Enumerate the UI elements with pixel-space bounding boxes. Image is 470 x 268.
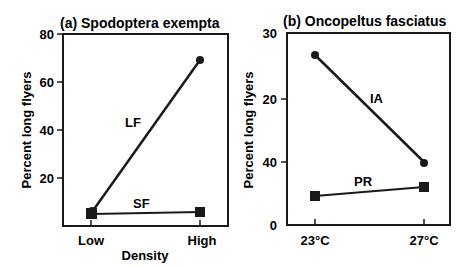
series-pr-label: PR <box>354 174 373 189</box>
panel-a-ytick-label: 20 <box>40 171 54 186</box>
panel-b: (b) Oncopeltus fasciatus 0 40 20 30 23°C… <box>241 13 450 248</box>
series-sf-label: SF <box>133 196 150 211</box>
series-sf-line <box>92 212 200 214</box>
panel-b-ytick-label: 0 <box>270 218 277 233</box>
series-lf-label: LF <box>125 115 141 130</box>
panel-b-ytick-label: 40 <box>263 155 277 170</box>
panel-b-ytick-label: 20 <box>263 92 277 107</box>
panel-a-ytick-label: 80 <box>40 27 54 42</box>
panel-b-ytick-label: 30 <box>263 26 277 41</box>
series-sf-point-low <box>86 208 97 219</box>
panel-a-ytick-label: 40 <box>40 123 54 138</box>
panel-a-title: (a) Spodoptera exempta <box>60 15 220 31</box>
series-ia-line <box>315 55 424 162</box>
figure: (a) Spodoptera exempta 20 40 60 80 Low H… <box>0 0 470 268</box>
series-ia-point-23c <box>311 51 319 59</box>
panel-b-title: (b) Oncopeltus fasciatus <box>283 13 447 29</box>
series-ia-label: IA <box>370 91 384 106</box>
series-lf-point-high <box>196 56 204 64</box>
panel-a-xtick-label: High <box>188 233 217 248</box>
series-sf-point-high <box>195 207 205 217</box>
panel-a-xtick-label: Low <box>78 233 105 248</box>
panel-a-xlabel: Density <box>122 248 170 263</box>
panel-b-xtick-label: 27°C <box>409 233 439 248</box>
series-ia-point-27c <box>420 159 428 167</box>
panel-a-ytick-label: 60 <box>40 75 54 90</box>
panel-b-ylabel: Percent long flyers <box>241 71 256 188</box>
panel-a-ylabel: Percent long flyers <box>19 71 34 188</box>
series-pr-point-23c <box>310 191 320 201</box>
series-pr-point-27c <box>419 182 429 192</box>
panel-b-xtick-label: 23°C <box>300 233 330 248</box>
series-lf-line <box>92 60 200 212</box>
panel-a: (a) Spodoptera exempta 20 40 60 80 Low H… <box>19 15 228 263</box>
